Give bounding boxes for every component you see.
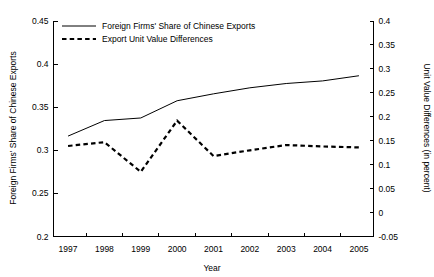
x-tick-label: 1999 (131, 244, 150, 254)
right-tick-label: 0.4 (379, 16, 391, 26)
left-axis-tick-labels: 0.20.250.30.350.40.45 (32, 16, 49, 242)
y-axis-title: Foreign Firms' Share of Chinese Exports (8, 51, 18, 204)
right-tick-label: 0.2 (379, 112, 391, 122)
x-tick-label: 2002 (240, 244, 259, 254)
right-tick-label: 0.15 (379, 136, 396, 146)
right-tick-label: 0.05 (379, 184, 396, 194)
plot-axes (54, 21, 374, 237)
left-tick-label: 0.3 (37, 145, 49, 155)
x-tick-label: 2003 (277, 244, 296, 254)
right-tick-label: -0.05 (379, 232, 399, 242)
left-tick-label: 0.2 (37, 232, 49, 242)
left-tick-label: 0.35 (32, 102, 49, 112)
axis-frame (54, 21, 374, 237)
left-axis-ticks (54, 21, 58, 237)
right-tick-label: 0.35 (379, 40, 396, 50)
left-tick-label: 0.4 (37, 59, 49, 69)
x-tick-label: 2000 (168, 244, 187, 254)
series-line-foreign-firms-share (68, 76, 359, 136)
series-layer (68, 76, 359, 172)
left-tick-label: 0.45 (32, 16, 49, 26)
right-tick-label: 0.25 (379, 88, 396, 98)
x-tick-label: 1998 (95, 244, 114, 254)
series-line-export-unit-value-differences (68, 121, 359, 172)
legend: Foreign Firms' Share of Chinese Exports … (62, 21, 255, 44)
x-axis-tick-labels: 199719981999200020012002200320042005 (59, 244, 369, 254)
right-tick-label: 0.3 (379, 64, 391, 74)
x-tick-label: 2001 (204, 244, 223, 254)
x-axis-ticks (86, 233, 341, 237)
x-tick-label: 2004 (313, 244, 332, 254)
x-tick-label: 2005 (349, 244, 368, 254)
x-tick-label: 1997 (59, 244, 78, 254)
left-tick-label: 0.25 (32, 188, 49, 198)
y2-axis-title: Unit Value Differences (in percent) (422, 63, 432, 192)
chart-container: 0.20.250.30.350.40.45 -0.0500.050.10.150… (0, 0, 434, 277)
right-axis-tick-labels: -0.0500.050.10.150.20.250.30.350.4 (379, 16, 399, 242)
right-tick-label: 0.1 (379, 160, 391, 170)
right-axis-ticks (370, 21, 374, 237)
legend-label-export-unit-value: Export Unit Value Differences (102, 34, 213, 44)
x-axis-title: Year (203, 263, 220, 273)
legend-label-foreign-firms-share: Foreign Firms' Share of Chinese Exports (102, 21, 255, 31)
chart-canvas: 0.20.250.30.350.40.45 -0.0500.050.10.150… (0, 0, 434, 277)
right-tick-label: 0 (379, 208, 384, 218)
